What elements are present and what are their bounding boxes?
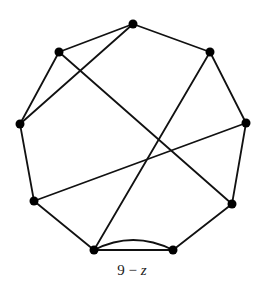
edge-lower-right-bottom-right bbox=[173, 204, 232, 250]
edge-top-top-right bbox=[133, 24, 210, 52]
vertex-top-right bbox=[206, 48, 215, 57]
edge-top-left-top bbox=[59, 24, 133, 52]
graph-diagram bbox=[0, 0, 264, 294]
edge-top-left bbox=[20, 24, 133, 124]
vertices bbox=[16, 20, 251, 255]
vertex-bottom-left bbox=[90, 246, 99, 255]
caption-operator: − bbox=[129, 262, 137, 278]
edge-left-top-left bbox=[20, 52, 59, 124]
edge-bottom-arc bbox=[94, 240, 173, 250]
edge-top-right-right bbox=[210, 52, 246, 123]
edges bbox=[20, 24, 246, 250]
vertex-top-left bbox=[55, 48, 64, 57]
vertex-lower-right bbox=[228, 200, 237, 209]
caption-variable: z bbox=[141, 262, 147, 278]
edge-top-right-bottom-left bbox=[94, 52, 210, 250]
vertex-left bbox=[16, 120, 25, 129]
vertex-bottom-right bbox=[169, 246, 178, 255]
edge-top-left-lower-right bbox=[59, 52, 232, 204]
vertex-lower-left bbox=[30, 197, 39, 206]
caption-number: 9 bbox=[117, 262, 125, 278]
edge-bottom-left-lower-left bbox=[34, 201, 94, 250]
edge-right-lower-right bbox=[232, 123, 246, 204]
vertex-top bbox=[129, 20, 138, 29]
edge-lower-left-left bbox=[20, 124, 34, 201]
figure-caption: 9 − z bbox=[0, 262, 264, 279]
vertex-right bbox=[242, 119, 251, 128]
